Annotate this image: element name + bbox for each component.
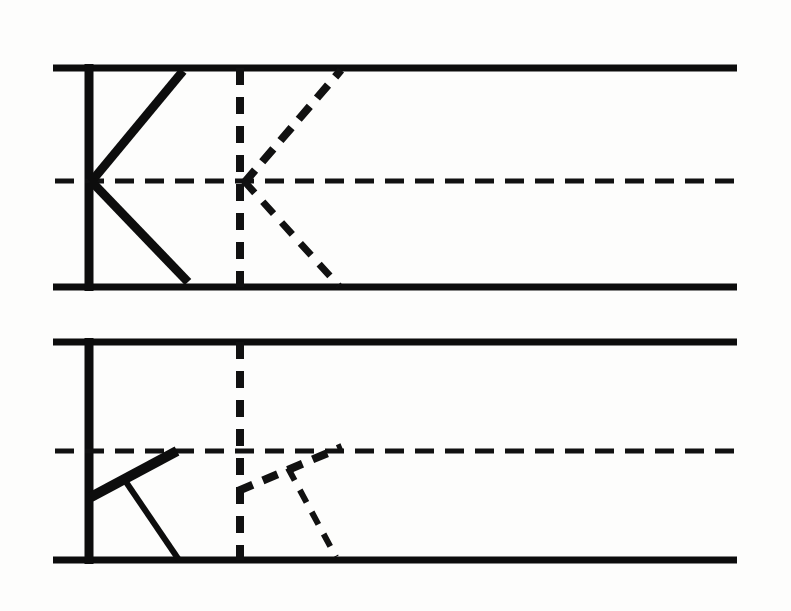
upper-panel-solid-upper-arm bbox=[91, 71, 183, 182]
upper-panel-solid-lower-arm bbox=[91, 181, 188, 282]
upper-panel-dashed-upper-arm bbox=[244, 70, 341, 183]
upper-panel bbox=[53, 64, 737, 291]
lower-panel bbox=[53, 338, 737, 564]
diagram-canvas bbox=[0, 0, 791, 611]
figure-root bbox=[0, 0, 791, 611]
lower-panel-dashed-lower-arm bbox=[288, 468, 336, 557]
lower-panel-solid-lower-arm bbox=[126, 482, 179, 560]
upper-panel-dashed-lower-arm bbox=[244, 181, 339, 286]
